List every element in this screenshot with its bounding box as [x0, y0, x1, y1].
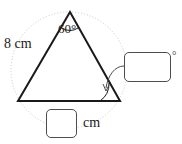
answer-box-angle[interactable] — [124, 52, 171, 82]
bottom-right-angle-arc-icon — [100, 83, 109, 101]
apex-angle-label: 60° — [58, 22, 76, 35]
geometry-figure: 8 cm 60° cm ° — [0, 0, 182, 144]
answer-box-side[interactable] — [46, 109, 77, 138]
side-length-label: 8 cm — [4, 37, 32, 51]
degree-symbol-label: ° — [172, 50, 176, 61]
unit-label-cm: cm — [83, 116, 100, 130]
